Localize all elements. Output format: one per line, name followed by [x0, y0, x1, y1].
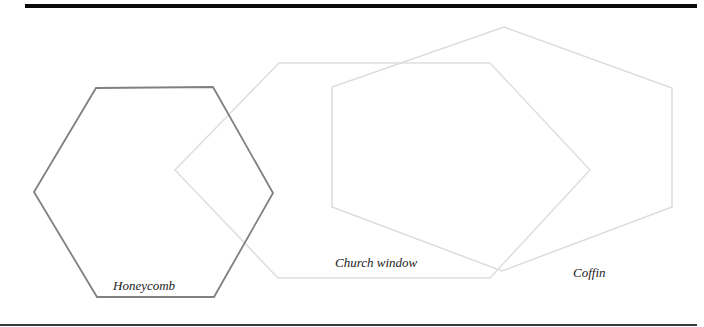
- honeycomb-hexagon: [34, 87, 273, 297]
- honeycomb-label: Honeycomb: [113, 279, 175, 292]
- coffin-label: Coffin: [573, 266, 606, 279]
- church-window-hexagon: [175, 63, 590, 278]
- church-window-label: Church window: [335, 256, 417, 269]
